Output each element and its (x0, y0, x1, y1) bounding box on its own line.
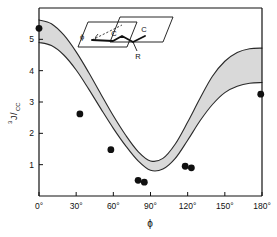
x-tick-label: 120° (179, 201, 197, 211)
inset-label-phi: ϕ (80, 32, 84, 41)
data-point (188, 164, 195, 171)
data-point (182, 163, 189, 170)
data-point (36, 25, 43, 32)
data-point (141, 179, 148, 186)
data-point (257, 91, 264, 98)
y-tick-label: 2 (29, 128, 34, 138)
inset-label-carbon-right: C (141, 25, 147, 34)
x-tick-label: 180° (253, 201, 271, 211)
figure-container: 12345 0°30°60°90°120°150°180° 3 J / CC ϕ (0, 0, 277, 237)
y-tick-label: 1 (29, 160, 34, 170)
x-tick-label: 0° (35, 201, 43, 211)
inset-label-substituent: R (135, 52, 141, 61)
data-point (107, 146, 114, 153)
x-tick-label: 90° (144, 201, 157, 211)
x-tick-label: 150° (216, 201, 234, 211)
x-tick-label: 60° (107, 201, 120, 211)
x-tick-label: 30° (70, 201, 83, 211)
data-point (76, 111, 83, 118)
y-tick-label: 3 (29, 97, 34, 107)
inset-label-carbon-left: C (111, 29, 117, 38)
karplus-curve-chart: 12345 0°30°60°90°120°150°180° 3 J / CC ϕ (0, 0, 277, 237)
y-axis-title-main: J (9, 116, 19, 121)
y-tick-label: 4 (29, 66, 34, 76)
y-tick-label: 5 (29, 34, 34, 44)
y-axis-title-subscript: CC (15, 102, 21, 111)
x-axis-title: ϕ (147, 218, 153, 229)
data-point (135, 177, 142, 184)
